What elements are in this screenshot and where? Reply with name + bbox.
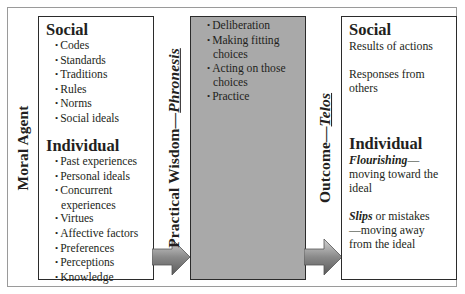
moral-agent-text: Moral Agent [14, 105, 31, 190]
list-item: Concurrent experiences [55, 184, 137, 212]
list-item: Virtues [55, 212, 155, 227]
outcome-social-line: Results of actions [349, 39, 453, 53]
list-item: Making fitting choices [207, 34, 297, 62]
slips-text: Slips or mistakes—moving away from the i… [349, 209, 441, 251]
outcome-label: Outcome—Telos [311, 16, 339, 280]
list-item: Standards [55, 54, 119, 69]
moral-agent-social-section: Social Codes Standards Traditions Rules … [46, 21, 119, 127]
outcome-social-line: Responses from others [349, 67, 429, 95]
outcome-box: Social Results of actions Responses from… [341, 16, 457, 280]
moral-agent-box: Social Codes Standards Traditions Rules … [38, 16, 154, 280]
practical-wisdom-label: Practical Wisdom—Phronesis [160, 16, 188, 280]
list-item: Preferences [55, 242, 155, 257]
practical-wisdom-section: Deliberation Making fitting choices Acti… [198, 19, 301, 105]
dash: — [165, 113, 182, 129]
phronesis-term: Phronesis [165, 48, 182, 113]
list-item: Perceptions [55, 256, 155, 271]
list-item: Deliberation [207, 19, 303, 34]
list-item: Personal ideals [55, 170, 155, 185]
moral-agent-label: Moral Agent [9, 16, 37, 280]
outcome-individual-heading: Individual [349, 135, 453, 153]
moral-agent-social-list: Codes Standards Traditions Rules Norms S… [46, 39, 119, 127]
list-item: Codes [55, 39, 119, 54]
list-item: Traditions [55, 68, 119, 83]
practical-wisdom-text: Practical Wisdom [165, 128, 182, 247]
list-item: Practice [207, 90, 303, 105]
moral-agent-individual-section: Individual Past experiences Personal ide… [46, 137, 155, 285]
telos-term: Telos [316, 93, 333, 127]
list-item: Social ideals [55, 112, 119, 127]
moral-agent-social-heading: Social [46, 21, 119, 39]
list-item: Knowledge [55, 271, 155, 286]
list-item: Norms [55, 97, 119, 112]
flourishing-text: Flourishing—moving toward the ideal [349, 153, 453, 195]
moral-agent-individual-list: Past experiences Personal ideals Concurr… [46, 155, 155, 285]
flourishing-term: Flourishing [349, 153, 407, 167]
slips-term: Slips [349, 209, 373, 223]
list-item: Affective factors [55, 227, 155, 242]
outcome-social-section: Social Results of actions Responses from… [349, 21, 453, 95]
outcome-individual-section: Individual Flourishing—moving toward the… [349, 135, 453, 251]
moral-agent-individual-heading: Individual [46, 137, 155, 155]
list-item: Rules [55, 83, 119, 98]
dash: — [316, 126, 333, 142]
practical-wisdom-list: Deliberation Making fitting choices Acti… [198, 19, 303, 105]
list-item: Past experiences [55, 155, 155, 170]
list-item: Acting on those choices [207, 62, 305, 90]
practical-wisdom-box: Deliberation Making fitting choices Acti… [190, 16, 306, 280]
outcome-text: Outcome [316, 142, 333, 203]
outcome-social-heading: Social [349, 21, 453, 39]
